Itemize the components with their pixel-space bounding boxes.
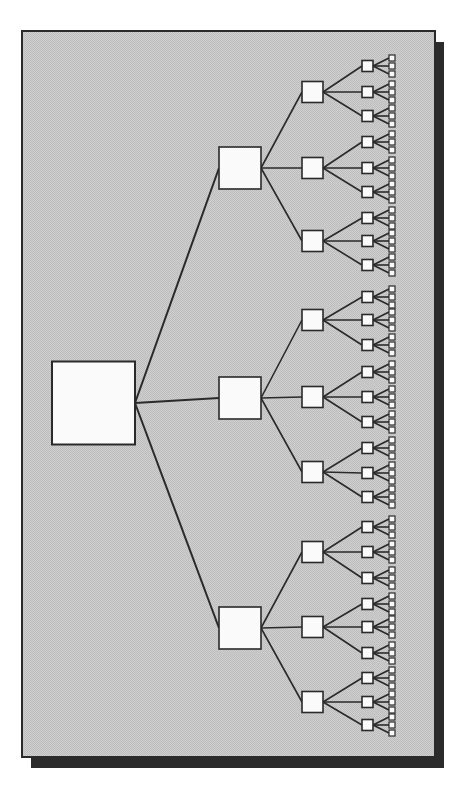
level3-node (362, 468, 373, 479)
leaf-node (389, 470, 395, 476)
level2-node (302, 310, 323, 331)
leaf-node (389, 286, 395, 292)
leaf-node (389, 683, 395, 689)
leaf-node (389, 478, 395, 484)
level2-node (302, 387, 323, 408)
level1-node (219, 377, 261, 419)
leaf-node (389, 302, 395, 308)
leaf-node (389, 294, 395, 300)
leaf-node (389, 632, 395, 638)
level3-node (362, 163, 373, 174)
level1-node (219, 607, 261, 649)
level3-node (362, 720, 373, 731)
level2-node (302, 462, 323, 483)
level3-node (362, 547, 373, 558)
leaf-node (389, 197, 395, 203)
leaf-node (389, 730, 395, 736)
level3-node (362, 87, 373, 98)
leaf-node (389, 139, 395, 145)
leaf-node (389, 394, 395, 400)
leaf-node (389, 419, 395, 425)
leaf-node (389, 437, 395, 443)
tree-edge (261, 397, 302, 398)
leaf-node (389, 667, 395, 673)
leaf-node (389, 270, 395, 276)
leaf-node (389, 173, 395, 179)
leaf-node (389, 411, 395, 417)
leaf-node (389, 557, 395, 563)
level2-node (302, 82, 323, 103)
leaf-node (389, 616, 395, 622)
leaf-node (389, 549, 395, 555)
leaf-node (389, 131, 395, 137)
leaf-node (389, 71, 395, 77)
leaf-node (389, 309, 395, 315)
leaf-node (389, 502, 395, 508)
leaf-node (389, 583, 395, 589)
leaf-node (389, 89, 395, 95)
leaf-node (389, 707, 395, 713)
level3-node (362, 340, 373, 351)
level3-node (362, 137, 373, 148)
leaf-node (389, 658, 395, 664)
leaf-node (389, 63, 395, 69)
level3-node (362, 187, 373, 198)
level2-node (302, 617, 323, 638)
leaf-node (389, 453, 395, 459)
level3-node (362, 111, 373, 122)
leaf-node (389, 325, 395, 331)
level3-node (362, 236, 373, 247)
leaf-node (389, 334, 395, 340)
leaf-node (389, 55, 395, 61)
level1-node (219, 147, 261, 189)
leaf-node (389, 691, 395, 697)
level3-node (362, 573, 373, 584)
leaf-node (389, 675, 395, 681)
level2-node (302, 542, 323, 563)
leaf-node (389, 230, 395, 236)
leaf-node (389, 516, 395, 522)
level2-node (302, 158, 323, 179)
leaf-node (389, 121, 395, 127)
leaf-node (389, 317, 395, 323)
level3-node (362, 492, 373, 503)
leaf-node (389, 445, 395, 451)
level2-node (302, 231, 323, 252)
leaf-node (389, 699, 395, 705)
leaf-node (389, 361, 395, 367)
leaf-node (389, 147, 395, 153)
leaf-node (389, 81, 395, 87)
leaf-node (389, 486, 395, 492)
leaf-node (389, 105, 395, 111)
tree-edge (323, 472, 362, 473)
leaf-node (389, 462, 395, 468)
leaf-node (389, 524, 395, 530)
leaf-node (389, 181, 395, 187)
level3-node (362, 697, 373, 708)
leaf-node (389, 97, 395, 103)
leaf-node (389, 593, 395, 599)
level3-node (362, 599, 373, 610)
leaf-node (389, 427, 395, 433)
leaf-node (389, 386, 395, 392)
leaf-node (389, 238, 395, 244)
leaf-node (389, 624, 395, 630)
leaf-node (389, 262, 395, 268)
level3-node (362, 522, 373, 533)
level3-node (362, 292, 373, 303)
leaf-node (389, 609, 395, 615)
leaf-node (389, 601, 395, 607)
level2-node (302, 692, 323, 713)
level3-node (362, 392, 373, 403)
leaf-node (389, 402, 395, 408)
leaf-node (389, 575, 395, 581)
level3-node (362, 673, 373, 684)
leaf-node (389, 215, 395, 221)
tree-diagram (0, 0, 464, 785)
leaf-node (389, 254, 395, 260)
leaf-node (389, 113, 395, 119)
leaf-node (389, 714, 395, 720)
leaf-node (389, 722, 395, 728)
level3-node (362, 315, 373, 326)
level3-node (362, 443, 373, 454)
